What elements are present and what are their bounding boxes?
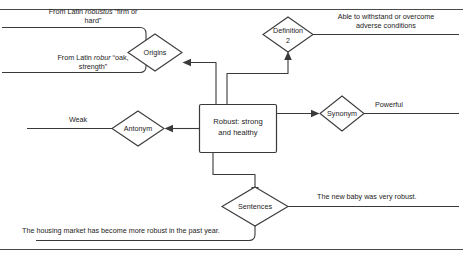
diagram-canvas: Origins Definition 2 Synonym Antonym Sen… [0,0,464,263]
node-center-robust[interactable]: Robust: strong and healthy [200,105,277,153]
concept-map-svg: Origins Definition 2 Synonym Antonym Sen… [0,0,464,263]
definition2-label-line1: Definition [273,26,303,35]
origin-2-italic: robur [94,53,111,62]
arrow-definition2 [284,52,292,61]
synonym-label: Synonym [327,109,357,118]
origin-2-line2: strength” [79,62,108,71]
definition-2-line1: Able to withstand or overcome [338,12,435,21]
arrow-origins [183,59,192,67]
leaf-origin-source-2: From Latin robur “oak, strength” [57,53,128,72]
arrow-antonym [165,125,174,133]
svg-text:From Latin robur “oak,: From Latin robur “oak, [57,53,128,62]
origin-2-post: “oak, [111,53,129,62]
node-sentences[interactable]: Sentences [222,187,288,226]
origin-1-line2: hard” [85,16,102,25]
origins-label: Origins [144,48,167,57]
edge-origin-source-1 [2,28,146,47]
leaf-antonym-value: Weak [69,115,88,124]
origin-1-pre: From Latin [49,7,85,16]
definition2-label-line2: 2 [286,36,290,45]
leaf-synonym-value: Powerful [375,100,403,109]
leaf-origin-source-1: From Latin robustus “firm or hard” [49,7,138,26]
leaf-sentence-1: The new baby was very robust. [317,192,416,201]
node-origins[interactable]: Origins [128,34,182,71]
edge-center-to-sentences [213,153,255,187]
leaf-definition-2-text: Able to withstand or overcome adverse co… [338,12,435,31]
definition-2-line2: adverse conditions [356,21,416,30]
node-synonym[interactable]: Synonym [320,96,364,131]
node-antonym[interactable]: Antonym [112,111,164,146]
arrow-synonym [311,110,320,118]
origin-1-italic: robustus [85,7,113,16]
origin-1-post: “firm or [113,7,138,16]
node-definition2[interactable]: Definition 2 [263,17,313,52]
edge-center-to-origins [190,63,216,105]
antonym-label: Antonym [124,124,152,133]
edge-center-to-definition2 [227,60,288,104]
sentences-label: Sentences [238,202,272,211]
svg-text:From Latin robustus “firm or: From Latin robustus “firm or [49,7,138,16]
origin-2-pre: From Latin [57,53,93,62]
center-label-line2: and healthy [218,128,257,137]
center-label-line1: Robust: strong [213,117,262,126]
leaf-sentence-2: The housing market has become more robus… [22,226,220,235]
